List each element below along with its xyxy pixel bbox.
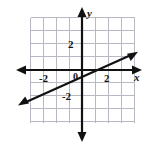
x-axis (16, 66, 142, 75)
y-axis-label: y (87, 8, 92, 19)
y-tick-label-positive-two: 2 (68, 39, 73, 50)
plotted-line-arrow-upper-right (127, 52, 138, 61)
plotted-line-arrow-lower-left (18, 97, 29, 106)
y-axis-arrow-down (78, 132, 87, 142)
y-tick-label-negative-two: -2 (62, 91, 71, 102)
x-axis-arrow-left (16, 66, 26, 75)
origin-label: 0 (73, 72, 78, 82)
x-tick-label-negative-two: -2 (39, 73, 48, 84)
coordinate-plane-figure: -2 2 2 -2 0 y x (0, 0, 154, 150)
x-tick-label-positive-two: 2 (104, 73, 109, 84)
plotted-line (18, 52, 138, 106)
x-axis-label: x (134, 72, 140, 83)
y-axis-arrow-up (78, 7, 87, 17)
